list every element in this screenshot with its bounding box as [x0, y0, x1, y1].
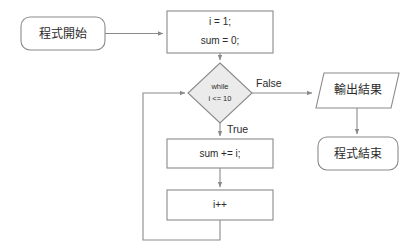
node-accumulate-label: sum += i;: [199, 148, 240, 159]
edge-label-false: False: [256, 77, 282, 89]
node-init-line2: sum = 0;: [201, 35, 240, 46]
node-init-line1: i = 1;: [209, 16, 231, 27]
node-decision-line1: while: [210, 82, 228, 91]
node-output-label: 輸出結果: [334, 82, 382, 97]
edge-label-true: True: [227, 123, 248, 135]
node-end-label: 程式結束: [334, 146, 382, 161]
flowchart-svg: 程式開始 i = 1; sum = 0; while i <= 10 False…: [0, 0, 409, 251]
node-decision-line2: i <= 10: [209, 94, 232, 103]
node-decision[interactable]: [188, 63, 252, 123]
flowchart-canvas: 程式開始 i = 1; sum = 0; while i <= 10 False…: [0, 0, 409, 251]
node-start-label: 程式開始: [39, 26, 87, 41]
node-increment-label: i++: [213, 199, 227, 210]
